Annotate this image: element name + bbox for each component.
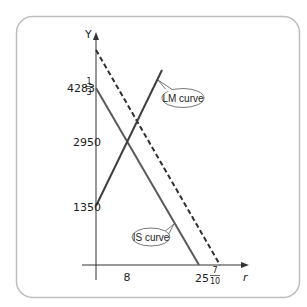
y-tick-4283-num: 1 (86, 77, 91, 86)
is-lm-chart: Y r 4283 1 3 2950 1350 8 25 7 10 LM curv… (0, 0, 307, 307)
x-tick-25-int: 25 (195, 272, 209, 285)
y-axis-label: Y (84, 28, 92, 41)
x-tick-8: 8 (124, 271, 131, 284)
y-tick-4283-den: 3 (86, 88, 91, 97)
x-tick-25-den: 10 (210, 277, 220, 286)
is-curve-label: IS curve (133, 232, 170, 243)
lm-curve-label: LM curve (162, 93, 204, 104)
y-tick-2950: 2950 (73, 136, 101, 149)
x-tick-25-num: 7 (212, 266, 217, 275)
y-tick-1350: 1350 (73, 201, 101, 214)
